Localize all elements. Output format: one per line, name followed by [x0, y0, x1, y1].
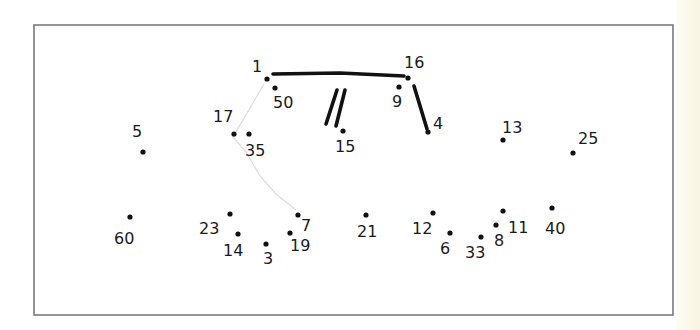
dot-number-label: 12	[412, 219, 432, 238]
dot-number-label: 11	[508, 218, 528, 237]
dot-marker	[500, 137, 505, 142]
dot-marker	[425, 129, 430, 134]
dot-number-label: 16	[404, 53, 424, 72]
dot-number-label: 33	[465, 243, 485, 262]
worksheet-frame	[34, 25, 673, 315]
dot-number-label: 17	[213, 107, 233, 126]
dot-marker	[447, 230, 452, 235]
dot-marker	[500, 208, 505, 213]
dot-number-label: 4	[433, 114, 443, 133]
dot-to-dot-worksheet: 1501691735154132556023143197211263381140	[0, 0, 700, 330]
dot-number-label: 8	[494, 231, 504, 250]
dot-marker	[246, 131, 251, 136]
dot-number-label: 14	[223, 241, 243, 260]
dot-number-label: 25	[578, 129, 598, 148]
dot-marker	[227, 211, 232, 216]
dot-marker	[231, 131, 236, 136]
dot-marker	[570, 150, 575, 155]
dot-number-label: 9	[392, 92, 402, 111]
dot-number-label: 7	[301, 216, 311, 235]
dot-number-label: 3	[263, 249, 273, 268]
dot-number-label: 60	[114, 229, 134, 248]
dot-number-label: 23	[199, 219, 219, 238]
dot-marker	[140, 149, 145, 154]
dot-number-label: 35	[245, 141, 265, 160]
dot-number-label: 6	[440, 239, 450, 258]
dot-number-label: 1	[252, 57, 262, 76]
dot-number-label: 19	[290, 236, 310, 255]
dot-marker	[430, 210, 435, 215]
dot-marker	[272, 85, 277, 90]
dot-marker	[405, 75, 410, 80]
dot-number-label: 50	[273, 93, 293, 112]
dot-marker	[235, 231, 240, 236]
dot-marker	[127, 214, 132, 219]
dot-marker	[295, 212, 300, 217]
dot-number-label: 13	[502, 118, 522, 137]
dot-marker	[264, 76, 269, 81]
dot-marker	[493, 222, 498, 227]
dot-marker	[478, 234, 483, 239]
dot-number-label: 15	[335, 137, 355, 156]
dot-marker	[340, 128, 345, 133]
dot-number-label: 21	[357, 222, 377, 241]
dot-marker	[396, 84, 401, 89]
dot-number-label: 5	[132, 122, 142, 141]
dot-marker	[549, 205, 554, 210]
dot-marker	[363, 212, 368, 217]
dot-marker	[287, 230, 292, 235]
dot-marker	[263, 241, 268, 246]
dot-number-label: 40	[545, 219, 565, 238]
